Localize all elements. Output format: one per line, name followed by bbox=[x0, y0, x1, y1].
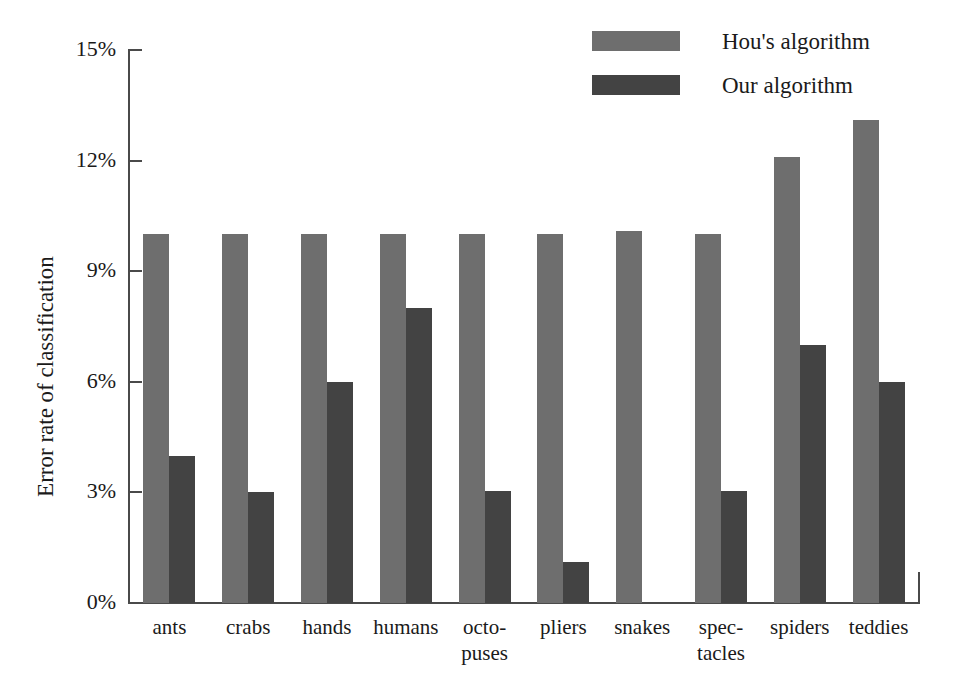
x-axis-category-label: octo- puses bbox=[445, 614, 524, 666]
y-axis-title: Error rate of classification bbox=[34, 187, 57, 567]
bar bbox=[380, 234, 406, 603]
x-axis-category-label: hands bbox=[288, 614, 367, 640]
bar bbox=[721, 491, 747, 603]
y-axis-tick bbox=[128, 491, 142, 493]
y-axis-tick-label-text: 15% bbox=[46, 38, 116, 60]
bar bbox=[222, 234, 248, 603]
bar bbox=[406, 308, 432, 603]
bar bbox=[143, 234, 169, 603]
y-axis-tick bbox=[128, 381, 142, 383]
x-axis-category-label: humans bbox=[366, 614, 445, 640]
y-axis-tick-label-text: 12% bbox=[46, 149, 116, 171]
y-axis-tick bbox=[128, 270, 142, 272]
bar bbox=[695, 234, 721, 603]
bar bbox=[327, 382, 353, 603]
bar bbox=[774, 157, 800, 603]
bar bbox=[485, 491, 511, 603]
bar bbox=[616, 231, 642, 603]
x-axis-category-label: crabs bbox=[209, 614, 288, 640]
bar bbox=[459, 234, 485, 603]
bar bbox=[169, 456, 195, 603]
y-axis-tick-label: 15% bbox=[38, 38, 116, 62]
y-axis-tick-label: 0% bbox=[38, 591, 116, 615]
bar bbox=[537, 234, 563, 603]
y-axis-line bbox=[128, 50, 130, 604]
bar bbox=[879, 382, 905, 603]
plot-area: 15%12%9%6%3%0% antscrabshandshumansocto-… bbox=[0, 0, 965, 689]
y-axis-tick-label-text: 0% bbox=[46, 591, 116, 613]
x-axis-end-tick bbox=[918, 572, 920, 604]
bar bbox=[248, 492, 274, 603]
y-axis-tick-label: 12% bbox=[38, 149, 116, 173]
y-axis-tick bbox=[128, 49, 142, 51]
bar-chart-figure: Hou's algorithm Our algorithm 15%12%9%6%… bbox=[0, 0, 965, 689]
x-axis-category-label: spec- tacles bbox=[682, 614, 761, 666]
bar bbox=[853, 120, 879, 603]
bar bbox=[563, 562, 589, 603]
x-axis-category-label: spiders bbox=[760, 614, 839, 640]
x-axis-category-label: pliers bbox=[524, 614, 603, 640]
y-axis-tick bbox=[128, 160, 142, 162]
y-axis-tick bbox=[128, 602, 142, 604]
bar bbox=[301, 234, 327, 603]
x-axis-category-label: snakes bbox=[603, 614, 682, 640]
x-axis-category-label: teddies bbox=[839, 614, 918, 640]
bar bbox=[800, 345, 826, 603]
x-axis-category-label: ants bbox=[130, 614, 209, 640]
